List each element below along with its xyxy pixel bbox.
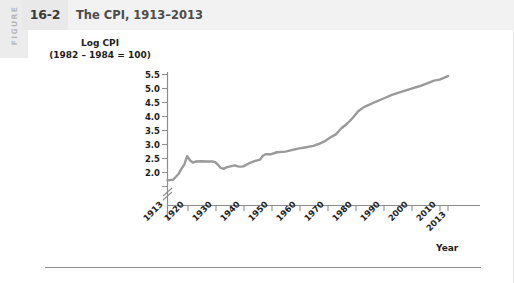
chart-container: Log CPI (1982 – 1984 = 100) <box>0 30 514 255</box>
footer-divider <box>45 267 481 268</box>
y-tick-label: 5.5 <box>134 70 160 80</box>
y-tick-label: 4.5 <box>134 98 160 108</box>
y-axis-ticks <box>162 75 168 187</box>
y-tick-label: 3.0 <box>134 140 160 150</box>
y-tick-label: 3.5 <box>134 126 160 136</box>
page-title: The CPI, 1913–2013 <box>76 8 203 22</box>
y-tick-label: 2.5 <box>134 154 160 164</box>
cpi-line-series <box>168 76 449 180</box>
figure-number: 16-2 <box>22 7 68 22</box>
y-tick-label: 5.0 <box>134 84 160 94</box>
y-tick-label: 4.0 <box>134 112 160 122</box>
x-axis-title: Year <box>436 243 458 253</box>
figure-page: FIGURE 16-2 The CPI, 1913–2013 Log CPI (… <box>0 0 514 283</box>
y-tick-label: 2.0 <box>134 168 160 178</box>
